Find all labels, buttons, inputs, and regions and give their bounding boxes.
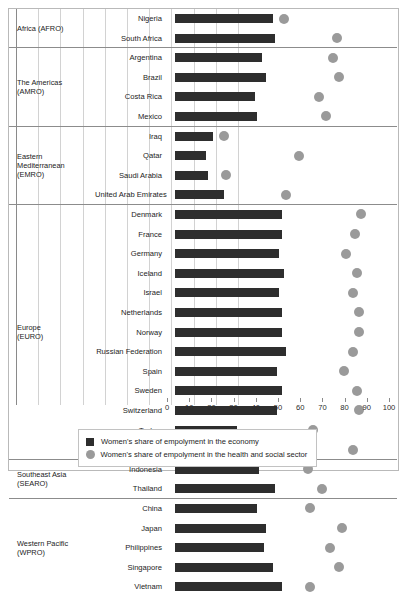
region-label: Southeast Asia (SEARO) — [17, 470, 66, 489]
chart-row — [167, 185, 397, 205]
chart-row — [167, 283, 397, 303]
x-tick — [300, 398, 301, 402]
country-label: China — [95, 499, 167, 519]
x-tick — [322, 398, 323, 402]
bar-swatch-icon — [86, 438, 94, 446]
dot-health-sector — [305, 582, 315, 592]
dot-health-sector — [332, 33, 342, 43]
dot-health-sector — [317, 484, 327, 494]
region-block: Western Pacific (WPRO) — [9, 499, 95, 596]
dot-health-sector — [348, 347, 358, 357]
bar-economy — [175, 171, 208, 180]
x-tick — [389, 398, 390, 402]
dot-health-sector — [352, 268, 362, 278]
country-label-group: NigeriaSouth Africa — [95, 9, 167, 48]
x-tick-label: 20 — [207, 403, 215, 412]
country-label: Japan — [95, 519, 167, 539]
country-label: Germany — [95, 244, 167, 264]
chart-row — [167, 205, 397, 225]
legend-item-economy: Women's share of empolyment in the econo… — [86, 435, 307, 448]
x-tick — [167, 398, 168, 402]
bar-economy — [175, 308, 282, 317]
region-label: Europe (EURO) — [17, 323, 43, 342]
country-label: Vietnam — [95, 577, 167, 596]
dot-health-sector — [354, 307, 364, 317]
dot-health-sector — [314, 92, 324, 102]
bar-economy — [175, 249, 279, 258]
x-tick-label: 90 — [363, 403, 371, 412]
x-tick-label: 50 — [274, 403, 282, 412]
country-label: Costa Rica — [95, 87, 167, 107]
country-label: Norway — [95, 323, 167, 343]
dot-health-sector — [348, 288, 358, 298]
chart-row — [167, 127, 397, 147]
x-tick — [345, 398, 346, 402]
country-label: Thailand — [95, 479, 167, 499]
legend-item-health-sector: Women's share of empolyment in the healt… — [86, 448, 307, 461]
chart-row — [167, 538, 397, 558]
x-tick — [278, 398, 279, 402]
country-label: Iraq — [95, 127, 167, 147]
region-block: Europe (EURO) — [9, 205, 95, 460]
x-tick-label: 10 — [185, 403, 193, 412]
country-label: Denmark — [95, 205, 167, 225]
country-label: Israel — [95, 283, 167, 303]
dot-health-sector — [341, 249, 351, 259]
chart-row — [167, 499, 397, 519]
dot-health-sector — [334, 562, 344, 572]
bar-economy — [175, 92, 255, 101]
bar-economy — [175, 328, 282, 337]
x-tick — [189, 398, 190, 402]
dot-health-sector — [321, 111, 331, 121]
country-label: Netherlands — [95, 303, 167, 323]
region-block: The Americas (AMRO) — [9, 48, 95, 126]
x-tick — [234, 398, 235, 402]
chart-row — [167, 225, 397, 245]
region-label-column: Africa (AFRO)The Americas (AMRO)Eastern … — [9, 9, 95, 596]
bar-economy — [175, 151, 206, 160]
x-axis: 0102030405060708090100 — [167, 398, 399, 420]
legend-label-economy: Women's share of empolyment in the econo… — [101, 437, 259, 446]
region-rows — [167, 48, 397, 126]
bar-economy — [175, 269, 284, 278]
dot-swatch-icon — [86, 450, 95, 459]
dot-health-sector — [294, 151, 304, 161]
bar-economy — [175, 563, 273, 572]
bar-economy — [175, 230, 282, 239]
region-rows — [167, 127, 397, 205]
bar-economy — [175, 582, 282, 591]
region-block: Africa (AFRO) — [9, 9, 95, 48]
country-label: South Africa — [95, 29, 167, 49]
dot-health-sector — [350, 229, 360, 239]
x-tick-label: 40 — [252, 403, 260, 412]
bar-economy — [175, 53, 262, 62]
bar-economy — [175, 190, 224, 199]
region-rows — [167, 205, 397, 460]
dot-health-sector — [281, 190, 291, 200]
x-tick-label: 30 — [229, 403, 237, 412]
country-label: France — [95, 225, 167, 245]
region-rows — [167, 499, 397, 596]
chart-row — [167, 107, 397, 127]
country-label: Russian Federation — [95, 342, 167, 362]
x-tick — [367, 398, 368, 402]
region-label: Africa (AFRO) — [17, 24, 63, 33]
country-label: Saudi Arabia — [95, 166, 167, 186]
bar-economy — [175, 112, 257, 121]
bar-economy — [175, 504, 257, 513]
chart-row — [167, 323, 397, 343]
chart-row — [167, 87, 397, 107]
country-label-group: IraqQatarSaudi ArabiaUnited Arab Emirate… — [95, 127, 167, 205]
dot-health-sector — [334, 72, 344, 82]
country-label: Singapore — [95, 558, 167, 578]
chart-row — [167, 519, 397, 539]
country-label: Spain — [95, 362, 167, 382]
dot-health-sector — [279, 14, 289, 24]
chart-row — [167, 342, 397, 362]
dot-health-sector — [221, 170, 231, 180]
country-label: Iceland — [95, 264, 167, 284]
x-tick-label: 70 — [318, 403, 326, 412]
country-label: Switzerland — [95, 401, 167, 421]
dot-health-sector — [325, 543, 335, 553]
